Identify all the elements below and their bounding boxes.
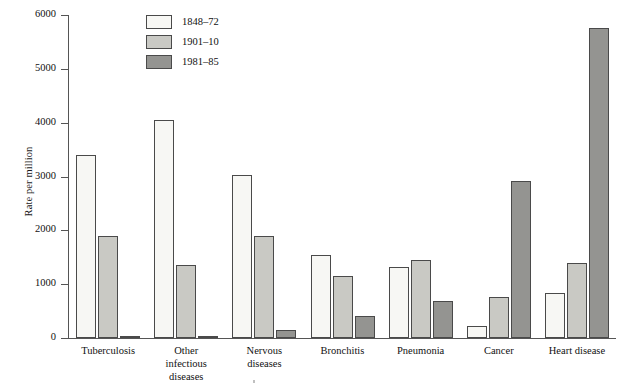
legend: 1848–721901–101981–85 <box>146 12 219 72</box>
y-axis-tick <box>61 338 69 339</box>
bar <box>389 267 409 338</box>
bar <box>254 236 274 338</box>
bar <box>98 236 118 338</box>
x-axis-category-label: Cancer <box>460 344 538 357</box>
bar <box>276 330 296 338</box>
bar <box>76 155 96 338</box>
bar <box>545 293 565 338</box>
x-axis-category-label-line: diseases <box>225 357 303 370</box>
x-axis-category-label-line: Nervous <box>225 344 303 357</box>
bar <box>489 297 509 338</box>
x-axis-category-label: Bronchitis <box>303 344 381 357</box>
legend-item: 1848–72 <box>146 12 219 31</box>
bar <box>176 265 196 338</box>
bar <box>333 276 353 338</box>
x-axis-category-label-line: Pneumonia <box>382 344 460 357</box>
x-axis-category-label-line: diseases <box>147 370 225 383</box>
y-axis-tick <box>61 230 69 231</box>
page-speck <box>253 380 255 383</box>
legend-swatch <box>146 15 172 29</box>
legend-item: 1901–10 <box>146 32 219 51</box>
x-axis-category-label: Tuberculosis <box>69 344 147 357</box>
y-axis-tick-label: 2000 <box>8 223 56 234</box>
bar <box>567 263 587 338</box>
bar-group <box>545 15 609 338</box>
y-axis-tick-label: 5000 <box>8 62 56 73</box>
x-axis-category-label: Otherinfectiousdiseases <box>147 344 225 383</box>
x-axis-category-label-line: Cancer <box>460 344 538 357</box>
y-axis-tick-label: 1000 <box>8 277 56 288</box>
x-axis-category-label-line: Other <box>147 344 225 357</box>
bar-group <box>311 15 375 338</box>
bar <box>355 316 375 338</box>
y-axis-tick-label: 4000 <box>8 116 56 127</box>
x-axis-category-label-line: infectious <box>147 357 225 370</box>
bar-group <box>76 15 140 338</box>
bar-group <box>467 15 531 338</box>
y-axis-tick <box>61 69 69 70</box>
y-axis-tick <box>61 123 69 124</box>
bar <box>589 28 609 338</box>
y-axis-tick-label: 6000 <box>8 8 56 19</box>
bar <box>120 336 140 338</box>
bar <box>154 120 174 338</box>
bar-chart: Rate per million 01000200030004000500060… <box>0 0 624 392</box>
y-axis-tick <box>61 15 69 16</box>
bar-group <box>389 15 453 338</box>
bar-group <box>232 15 296 338</box>
legend-item: 1981–85 <box>146 52 219 71</box>
bar <box>411 260 431 338</box>
bar <box>433 301 453 338</box>
legend-label: 1848–72 <box>182 16 219 27</box>
x-axis-category-label: Heart disease <box>538 344 616 357</box>
legend-label: 1981–85 <box>182 56 219 67</box>
y-axis-tick <box>61 177 69 178</box>
x-axis-category-label: Nervousdiseases <box>225 344 303 370</box>
legend-swatch <box>146 35 172 49</box>
bar <box>198 336 218 338</box>
bar <box>311 255 331 338</box>
bar <box>232 175 252 338</box>
bar <box>467 326 487 338</box>
y-axis-tick-label: 3000 <box>8 170 56 181</box>
legend-label: 1901–10 <box>182 36 219 47</box>
x-axis-category-label-line: Bronchitis <box>303 344 381 357</box>
y-axis-tick <box>61 284 69 285</box>
y-axis-tick-label: 0 <box>8 331 56 342</box>
x-axis-line <box>68 338 616 339</box>
x-axis-category-label-line: Tuberculosis <box>69 344 147 357</box>
legend-swatch <box>146 55 172 69</box>
bar <box>511 181 531 338</box>
x-axis-category-label-line: Heart disease <box>538 344 616 357</box>
x-axis-category-label: Pneumonia <box>382 344 460 357</box>
